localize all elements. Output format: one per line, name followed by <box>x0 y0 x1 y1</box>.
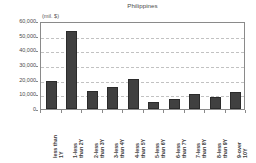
x-axis: less than 1Y1-less than 2Y2-less than 3Y… <box>40 110 245 163</box>
x-tick-mark <box>245 110 246 113</box>
bar <box>46 81 57 109</box>
x-tick-mark <box>61 110 62 113</box>
y-tick-label: 10,000 <box>19 93 36 99</box>
x-tick-mark <box>143 110 144 113</box>
bar <box>66 31 77 109</box>
y-tick-mark <box>36 66 38 67</box>
bar <box>210 97 221 109</box>
x-tick-mark <box>81 110 82 113</box>
y-tick-label: 30,000 <box>19 63 36 69</box>
y-tick-label: 20,000 <box>19 78 36 84</box>
chart-title: Philippines <box>40 2 245 9</box>
plot-area <box>40 22 245 110</box>
x-tick-mark <box>225 110 226 113</box>
x-tick-mark <box>122 110 123 113</box>
bars-layer <box>41 23 244 109</box>
x-tick-mark <box>184 110 185 113</box>
y-tick-label: 60,000 <box>19 19 36 25</box>
y-tick-label: 40,000 <box>19 49 36 55</box>
bar <box>169 99 180 109</box>
x-tick-label: 4-less than 5Y <box>135 114 146 158</box>
bar <box>87 91 98 109</box>
x-tick-label: 1-less than 2Y <box>73 114 84 158</box>
x-tick-label: less than 1Y <box>53 114 64 158</box>
y-tick-mark <box>36 110 38 111</box>
y-tick-mark <box>36 51 38 52</box>
y-tick-mark <box>36 37 38 38</box>
y-tick-label: 50,000 <box>19 34 36 40</box>
x-tick-mark <box>40 110 41 113</box>
x-tick-label: 5-less than 6Y <box>155 114 166 158</box>
x-tick-label: 9-over 10Y <box>237 114 248 158</box>
x-tick-label: 3-less than 4Y <box>114 114 125 158</box>
x-tick-label: 2-less than 3Y <box>94 114 105 158</box>
y-axis-units-label: (mil. $) <box>42 13 59 19</box>
x-tick-label: 8-less than 9Y <box>217 114 228 158</box>
x-tick-mark <box>102 110 103 113</box>
x-tick-mark <box>163 110 164 113</box>
bar <box>128 79 139 109</box>
bar <box>148 102 159 109</box>
y-tick-mark <box>36 81 38 82</box>
bar <box>107 87 118 109</box>
x-tick-label: 6-less than 7Y <box>176 114 187 158</box>
bar-chart: Philippines (mil. $) 010,00020,00030,000… <box>0 0 256 163</box>
y-tick-mark <box>36 22 38 23</box>
y-tick-mark <box>36 95 38 96</box>
x-tick-mark <box>204 110 205 113</box>
y-axis: 010,00020,00030,00040,00050,00060,000 <box>0 22 38 110</box>
x-tick-label: 7-less than 8Y <box>196 114 207 158</box>
bar <box>230 92 241 109</box>
bar <box>189 94 200 109</box>
